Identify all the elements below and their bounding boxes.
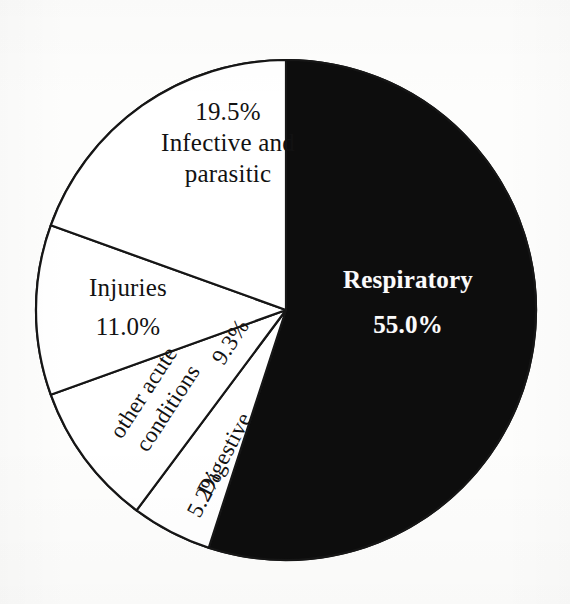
slice-name-infective-line1: Infective and <box>118 127 338 158</box>
slice-label-spacer <box>48 303 208 311</box>
pie-chart-figure: 19.5% Infective and parasitic Respirator… <box>0 0 570 604</box>
slice-label-infective-and-parasitic: 19.5% Infective and parasitic <box>118 96 338 189</box>
slice-name-respiratory: Respiratory <box>318 264 498 295</box>
slice-label-respiratory: Respiratory 55.0% <box>318 264 498 340</box>
slice-name-injuries: Injuries <box>48 272 208 303</box>
slice-percent-infective: 19.5% <box>118 96 338 127</box>
slice-label-spacer <box>318 295 498 309</box>
slice-percent-respiratory: 55.0% <box>318 309 498 340</box>
slice-name-infective-line2: parasitic <box>118 158 338 189</box>
